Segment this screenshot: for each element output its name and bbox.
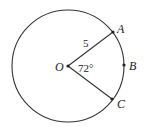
point-B (122, 63, 125, 66)
point-A (111, 30, 114, 33)
label-B: B (129, 59, 137, 73)
label-O: O (55, 60, 64, 74)
circle-diagram: O A B C 5 72° (0, 0, 145, 127)
radius-OA (68, 32, 113, 66)
label-C: C (117, 97, 126, 111)
angle-label: 72° (78, 62, 93, 74)
label-A: A (116, 22, 125, 36)
radius-label: 5 (83, 37, 89, 49)
point-O (66, 64, 69, 67)
point-C (110, 97, 113, 100)
